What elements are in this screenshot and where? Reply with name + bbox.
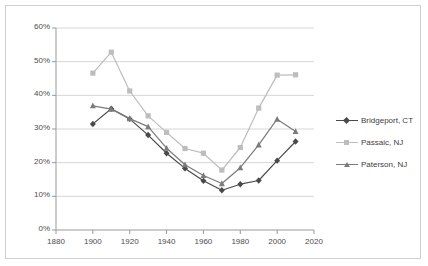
x-axis-tick-label: 1900 [76,237,110,246]
legend-marker-triangle [344,162,350,167]
y-axis-tick-label: 0% [20,224,50,233]
chart-legend: Bridgeport, CT Passaic, NJ Paterson, NJ [336,109,428,175]
x-axis-tick-label: 2000 [260,237,294,246]
y-axis-tick-label: 10% [20,190,50,199]
y-axis-tick-label: 40% [20,89,50,98]
x-axis-tick-label: 1980 [223,237,257,246]
legend-label-bridgeport: Bridgeport, CT [361,116,413,125]
x-axis-tick-label: 1940 [150,237,184,246]
x-axis-tick-label: 1880 [39,237,73,246]
series-bridgeport-ct [90,106,299,194]
y-axis-tick-label: 60% [20,22,50,31]
legend-swatch-bridgeport [336,115,358,125]
legend-item-bridgeport[interactable]: Bridgeport, CT [336,109,428,131]
legend-item-passaic[interactable]: Passaic, NJ [336,131,428,153]
series-paterson-nj [90,103,299,187]
legend-marker-square [344,140,349,145]
series-passaic-nj [90,50,298,173]
legend-swatch-passaic [336,137,358,147]
legend-item-paterson[interactable]: Paterson, NJ [336,153,428,175]
legend-label-passaic: Passaic, NJ [361,138,403,147]
y-axis-tick-label: 50% [20,56,50,65]
legend-label-paterson: Paterson, NJ [361,160,407,169]
chart-container: 0%10%20%30%40%50%60%18801900192019401960… [5,5,421,259]
x-axis-tick-label: 2020 [297,237,331,246]
legend-swatch-paterson [336,159,358,169]
y-axis-tick-label: 20% [20,157,50,166]
x-axis-tick-label: 1960 [186,237,220,246]
x-axis-tick-label: 1920 [113,237,147,246]
legend-marker-diamond [343,116,350,123]
y-axis-tick-label: 30% [20,123,50,132]
